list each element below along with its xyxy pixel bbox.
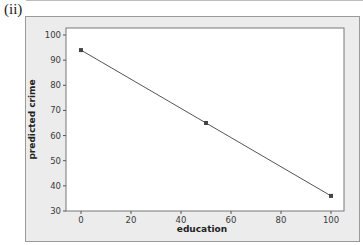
line-chart: 30405060708090100 020406080100 education…	[0, 0, 363, 245]
y-axis-title: predicted crime	[27, 79, 37, 159]
y-tick-label: 90	[50, 55, 61, 65]
x-axis: 020406080100	[78, 211, 339, 225]
x-tick-label: 100	[323, 215, 339, 225]
plot-area	[66, 28, 344, 211]
data-point-marker	[79, 48, 83, 52]
y-axis: 30405060708090100	[45, 30, 66, 216]
x-tick-label: 80	[276, 215, 287, 225]
y-tick-label: 100	[45, 30, 61, 40]
y-tick-label: 40	[50, 181, 61, 191]
y-tick-label: 60	[50, 131, 61, 141]
x-tick-label: 20	[126, 215, 137, 225]
x-tick-label: 0	[78, 215, 83, 225]
x-axis-title: education	[177, 224, 227, 234]
y-tick-label: 70	[50, 105, 61, 115]
y-tick-label: 50	[50, 156, 61, 166]
x-tick-label: 60	[226, 215, 237, 225]
y-tick-label: 80	[50, 80, 61, 90]
data-point-marker	[204, 121, 208, 125]
y-tick-label: 30	[50, 206, 61, 216]
data-point-marker	[329, 194, 333, 198]
